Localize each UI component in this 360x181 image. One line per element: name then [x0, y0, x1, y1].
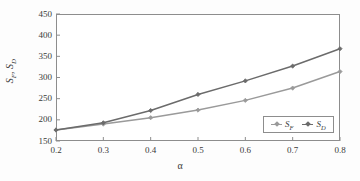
data-point-sd [243, 79, 247, 83]
x-tick-label: 0.6 [230, 145, 260, 155]
legend-item-sd[interactable]: SD [302, 119, 325, 131]
x-tick-label: 0.5 [183, 145, 213, 155]
data-point-sd [338, 47, 342, 51]
data-point-sf [338, 69, 342, 73]
legend-marker-sd-icon [302, 121, 313, 128]
data-point-sf [196, 108, 200, 112]
data-point-sf [291, 86, 295, 90]
legend-marker-sf-icon [271, 121, 282, 128]
data-point-sd [291, 64, 295, 68]
data-point-sf [149, 116, 153, 120]
data-point-sf [243, 98, 247, 102]
legend-label-sf: SF [285, 119, 293, 131]
x-tick-label: 0.4 [136, 145, 166, 155]
x-tick-label: 0.3 [88, 145, 118, 155]
data-point-sd [149, 108, 153, 112]
data-point-sd [196, 92, 200, 96]
x-tick-label: 0.7 [278, 145, 308, 155]
legend-item-sf[interactable]: SF [271, 119, 293, 131]
x-tick-label: 0.8 [325, 145, 355, 155]
x-axis-title: α [0, 160, 360, 171]
x-tick-label: 0.2 [41, 145, 71, 155]
chart-figure: SF, SD 450400350300250200150 0.20.30.40.… [0, 0, 360, 181]
data-point-sd [54, 128, 58, 132]
chart-legend[interactable]: SF SD [263, 116, 334, 133]
legend-label-sd: SD [316, 119, 325, 131]
x-axis-tick-labels: 0.20.30.40.50.60.70.8 [0, 145, 360, 159]
